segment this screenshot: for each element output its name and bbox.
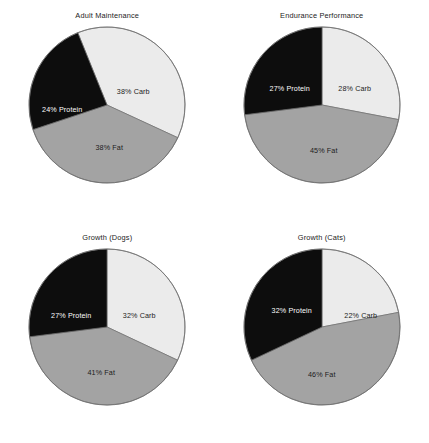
chart-title: Adult Maintenance: [75, 11, 139, 20]
pie-chart-1: Adult Maintenance38% Carb38% Fat24% Prot…: [0, 0, 215, 222]
pie-slice-protein: [29, 249, 107, 337]
pie-slice-protein: [244, 27, 322, 115]
pie-chart-3: Growth (Dogs)32% Carb41% Fat27% Protein: [0, 222, 215, 443]
pie-chart-grid: Adult Maintenance38% Carb38% Fat24% Prot…: [0, 0, 429, 443]
chart-title: Endurance Performance: [280, 11, 363, 20]
pie-slice-carb: [322, 27, 400, 120]
pie-svg: [27, 247, 187, 407]
pie-svg: [242, 247, 402, 407]
pie-graphic: 38% Carb38% Fat24% Protein: [27, 25, 187, 185]
chart-title: Growth (Cats): [298, 233, 346, 242]
pie-chart-4: Growth (Cats)22% Carb46% Fat32% Protein: [215, 222, 429, 443]
pie-graphic: 32% Carb41% Fat27% Protein: [27, 247, 187, 407]
pie-svg: [27, 25, 187, 185]
pie-svg: [242, 25, 402, 185]
pie-graphic: 22% Carb46% Fat32% Protein: [242, 247, 402, 407]
pie-slice-fat: [244, 105, 398, 183]
pie-graphic: 28% Carb45% Fat27% Protein: [242, 25, 402, 185]
chart-title: Growth (Dogs): [82, 233, 132, 242]
pie-chart-2: Endurance Performance28% Carb45% Fat27% …: [215, 0, 429, 222]
